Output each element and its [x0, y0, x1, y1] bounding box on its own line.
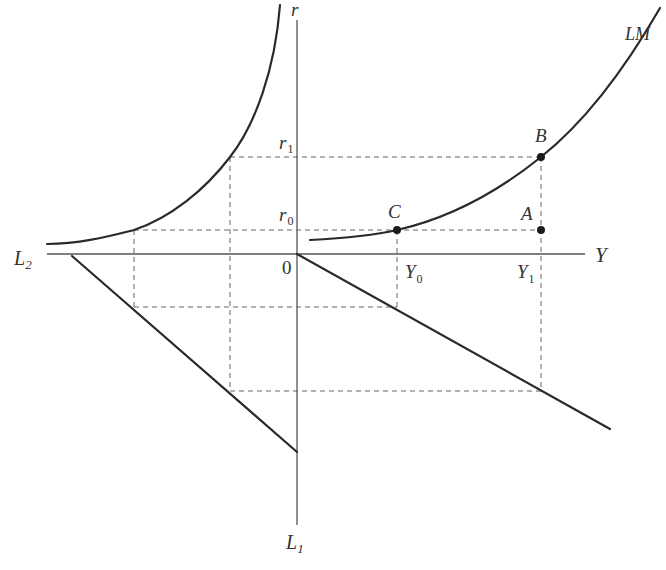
point-a [537, 226, 545, 234]
point-c-label: C [388, 201, 401, 222]
right-linear-line [297, 254, 610, 429]
y0-label: Y0 [405, 261, 423, 286]
left-linear-line [72, 256, 297, 452]
lm-curve [310, 8, 660, 240]
axes [47, 20, 585, 525]
point-c [393, 226, 401, 234]
point-a-label: A [519, 203, 533, 224]
point-b [537, 153, 545, 161]
r0-label: r0 [279, 204, 293, 228]
r-axis-label: r [291, 0, 299, 20]
origin-label: 0 [282, 257, 292, 278]
l2-label: L2 [13, 247, 32, 272]
curves [47, 5, 660, 452]
money-demand-curve [47, 5, 280, 244]
y1-label: Y1 [517, 261, 535, 286]
r1-label: r1 [279, 132, 293, 156]
l1-label: L1 [285, 531, 304, 556]
lm-label: LM [624, 24, 651, 44]
point-b-label: B [535, 125, 547, 146]
y-axis-label: Y [595, 243, 609, 267]
lm-curve-diagram: r LM r1 r0 B C A Y L2 0 Y0 Y1 L1 [0, 0, 666, 570]
